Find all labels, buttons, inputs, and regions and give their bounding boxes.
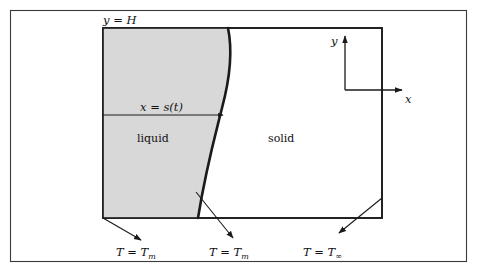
solid-region-label: solid [268, 132, 294, 145]
bc-left-prefix: T = T [116, 245, 150, 259]
figure-container: y = H x = s(t) liquid solid y x T = Tm T… [0, 0, 477, 274]
liquid-region-label: liquid [137, 132, 169, 145]
x-axis-label: x [405, 92, 412, 106]
y-axis-label: y [330, 34, 338, 48]
bc-right-subscript: ∞ [335, 252, 342, 261]
bc-interface-subscript: m [241, 252, 249, 261]
diagram-canvas: y = H x = s(t) liquid solid y x T = Tm T… [0, 0, 477, 274]
bc-interface-label: T = Tm [209, 245, 249, 261]
top-boundary-label: y = H [102, 13, 137, 27]
bc-right-prefix: T = T [303, 245, 337, 259]
bc-left-subscript: m [148, 252, 156, 261]
bc-interface-prefix: T = T [209, 245, 243, 259]
bc-right-label: T = T∞ [303, 245, 342, 261]
leader-left-boundary [103, 218, 141, 240]
bc-left-label: T = Tm [116, 245, 156, 261]
interface-position-label: x = s(t) [140, 100, 183, 114]
